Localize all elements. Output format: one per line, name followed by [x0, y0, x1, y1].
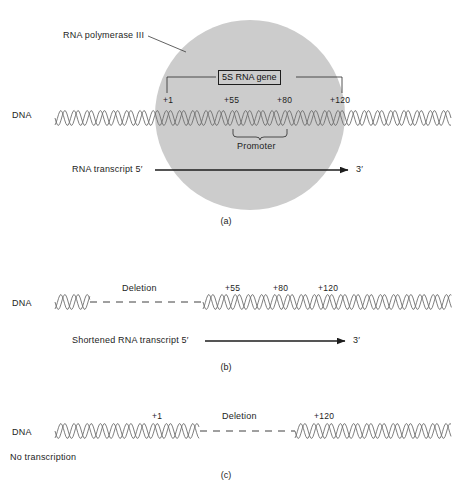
rna-polymerase-iii-label: RNA polymerase III [63, 30, 144, 40]
rna-transcript-3prime-label-a: 3′ [356, 164, 363, 174]
position-label-plus120-c: +120 [314, 411, 334, 421]
panel-caption-c: (c) [206, 470, 246, 480]
figure-rna-polymerase-iii-5s-gene: RNA polymerase III 5S RNA gene DNA +1 +5… [0, 0, 472, 492]
dna-helix-panel-b-right [203, 295, 451, 310]
position-label-plus55-b: +55 [225, 283, 240, 293]
5s-rna-gene-box: 5S RNA gene [218, 70, 281, 85]
position-label-plus55-a: +55 [224, 95, 239, 105]
rna-polymerase-iii-blob [155, 20, 345, 210]
rna-transcript-label-a: RNA transcript 5′ [72, 164, 143, 174]
shortened-rna-transcript-label-b: Shortened RNA transcript 5′ [72, 335, 189, 345]
position-label-plus80-a: +80 [277, 95, 292, 105]
deletion-label-b: Deletion [122, 283, 157, 293]
position-label-plus120-b: +120 [318, 283, 338, 293]
dna-helix-panel-c-left [55, 424, 199, 439]
dna-helix-panel-b-left [55, 295, 90, 310]
position-label-plus120-a: +120 [330, 95, 350, 105]
position-label-plus80-b: +80 [273, 283, 288, 293]
position-label-plus1-c: +1 [152, 411, 162, 421]
panel-caption-a: (a) [206, 216, 246, 226]
rna-transcript-3prime-label-b: 3′ [353, 335, 360, 345]
position-label-plus1-a: +1 [163, 95, 173, 105]
dna-label-panel-c: DNA [12, 427, 32, 437]
deletion-label-c: Deletion [222, 411, 257, 421]
polymerase-leader-line [148, 36, 186, 52]
promoter-label: Promoter [237, 141, 276, 151]
no-transcription-label: No transcription [10, 452, 76, 462]
panel-caption-b: (b) [206, 362, 246, 372]
dna-label-panel-a: DNA [12, 110, 32, 120]
dna-label-panel-b: DNA [12, 298, 32, 308]
dna-helix-panel-c-right [295, 424, 451, 439]
